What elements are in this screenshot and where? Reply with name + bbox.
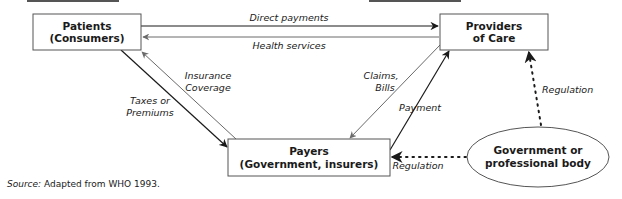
patients-sublabel: (Consumers): [49, 32, 124, 44]
payers-sublabel: (Government, insurers): [240, 158, 379, 170]
patients-node: Patients (Consumers): [33, 14, 141, 50]
taxes-premiums-label-2: Premiums: [126, 107, 174, 118]
payment-label: Payment: [399, 102, 442, 113]
regulation-payers-label: Regulation: [392, 160, 443, 171]
taxes-premiums-label-1: Taxes or: [130, 95, 171, 106]
providers-node: Providers of Care: [440, 14, 548, 50]
government-sublabel: professional body: [485, 157, 591, 169]
insurance-coverage-label-1: Insurance: [185, 70, 232, 81]
government-label: Government or: [493, 144, 583, 156]
claims-bills-label-2: Bills: [375, 82, 394, 93]
direct-payments-label: Direct payments: [250, 12, 329, 23]
health-services-label: Health services: [252, 40, 325, 51]
regulation-providers-label: Regulation: [542, 84, 593, 95]
regulation-providers-arrow: [529, 53, 541, 125]
patients-label: Patients: [63, 20, 112, 32]
insurance-coverage-label-2: Coverage: [185, 82, 231, 93]
claims-bills-label-1: Claims,: [364, 70, 399, 81]
government-node: Government or professional body: [467, 127, 609, 187]
providers-sublabel: of Care: [473, 32, 516, 44]
source-label: Source:: [7, 179, 41, 189]
providers-label: Providers: [466, 20, 523, 32]
payers-node: Payers (Government, insurers): [228, 139, 390, 176]
source-note: Source: Adapted from WHO 1993.: [7, 179, 160, 189]
health-system-diagram: Patients (Consumers) Providers of Care P…: [0, 0, 622, 199]
payers-label: Payers: [289, 145, 329, 157]
source-text: Adapted from WHO 1993.: [41, 179, 160, 189]
claims-bills-arrow: [350, 45, 440, 138]
